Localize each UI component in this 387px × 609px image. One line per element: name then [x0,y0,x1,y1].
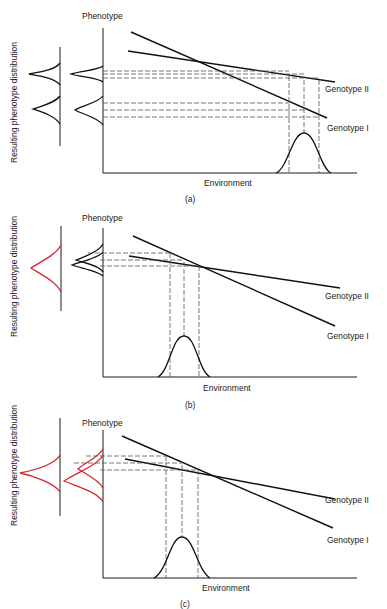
resulting-distribution-c [20,455,60,492]
phenotype-dist-genotype-i-a [75,96,103,125]
panel-caption-a: (a) [185,194,196,204]
panel-caption-c: (c) [180,599,190,609]
genotype-ii-line-c [125,459,335,499]
environment-distribution-b [158,336,210,377]
genotype-i-label-b: Genotype I [327,331,369,341]
phenotype-dist-genotype-ii-a [71,66,103,82]
x-axis-label-c: Environment [202,583,250,593]
genotype-ii-line-a [128,51,335,82]
genotype-i-line-c [122,436,333,528]
panel-b: Resulting phenotype distribution Phenoty… [9,213,369,410]
environment-distribution-c [154,537,210,578]
y-axis-label-b: Phenotype [82,213,123,223]
x-axis-label-a: Environment [204,178,252,188]
y-axis-label-a: Phenotype [82,11,123,21]
side-label-a: Resulting phenotype distribution [9,42,19,163]
panel-c: Resulting phenotype distribution Phenoty… [9,405,369,609]
genotype-ii-label-a: Genotype II [325,84,369,94]
panel-a: Resulting phenotype distribution Phenoty… [9,11,369,204]
phenotype-dist-genotype-ii-c [78,449,103,488]
resulting-peak-upper-a [29,63,60,85]
genotype-i-label-c: Genotype I [327,535,369,545]
genotype-ii-label-b: Genotype II [325,291,369,301]
resulting-distribution-b [31,245,61,292]
side-label-c: Resulting phenotype distribution [9,405,19,526]
y-axis-label-c: Phenotype [82,418,123,428]
resulting-peak-lower-a [33,96,60,124]
environment-distribution-a [276,133,331,173]
genotype-ii-line-b [129,256,340,288]
genotype-i-line-a [131,32,327,118]
panel-caption-b: (b) [185,400,196,410]
side-label-b: Resulting phenotype distribution [9,216,19,337]
phenotype-dist-genotype-i-c [64,455,103,502]
genotype-i-line-b [133,236,335,326]
reaction-norm-figure: Resulting phenotype distribution Phenoty… [0,0,387,609]
genotype-ii-label-c: Genotype II [325,495,369,505]
genotype-i-label-a: Genotype I [327,123,369,133]
x-axis-label-b: Environment [203,383,251,393]
